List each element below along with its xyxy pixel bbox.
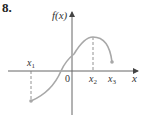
origin-label: 0 xyxy=(65,73,70,84)
tick-x3: x3 xyxy=(107,73,116,86)
tick-x2: x2 xyxy=(88,73,97,86)
tick-x1: x1 xyxy=(26,57,35,70)
y-axis-label: f(x) xyxy=(52,9,68,22)
function-graph: f(x) x x1 0 x2 x3 xyxy=(0,0,144,121)
endpoint-x1 xyxy=(29,99,33,103)
endpoint-x3 xyxy=(110,60,114,64)
x-axis-label: x xyxy=(131,72,137,84)
